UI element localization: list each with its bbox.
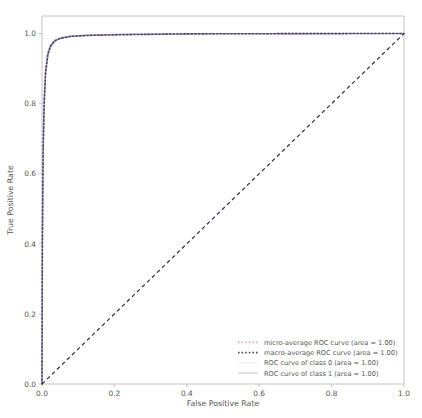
x-tick-label-0.8: 0.8	[326, 389, 338, 398]
y-tick-label-0.2: 0.2	[24, 310, 36, 319]
x-tick-label-0.6: 0.6	[253, 389, 265, 398]
x-tick-label-0.2: 0.2	[109, 389, 121, 398]
legend-label-3: ROC curve of class 1 (area = 1.00)	[264, 370, 379, 378]
legend-label-2: ROC curve of class 0 (area = 1.00)	[264, 359, 379, 367]
x-tick-label-1.0: 1.0	[398, 389, 410, 398]
y-axis-tick-labels: 0.00.20.40.60.81.0	[24, 29, 36, 388]
x-axis-tick-labels: 0.00.20.40.60.81.0	[36, 389, 410, 398]
y-tick-label-1.0: 1.0	[24, 29, 36, 38]
plot-area-background	[42, 16, 404, 384]
x-tick-label-0.0: 0.0	[36, 389, 48, 398]
y-tick-label-0.4: 0.4	[24, 240, 36, 249]
y-tick-label-0.8: 0.8	[24, 99, 36, 108]
x-tick-label-0.4: 0.4	[181, 389, 193, 398]
x-axis-label: False Positive Rate	[187, 399, 260, 408]
roc-chart-figure: 0.00.20.40.60.81.0 0.00.20.40.60.81.0 Fa…	[0, 0, 422, 418]
legend-label-1: macro-average ROC curve (area = 1.00)	[264, 349, 398, 357]
legend-label-0: micro-average ROC curve (area = 1.00)	[264, 339, 395, 347]
y-tick-label-0.6: 0.6	[24, 169, 36, 178]
y-tick-label-0.0: 0.0	[24, 380, 36, 389]
roc-plot-canvas: 0.00.20.40.60.81.0 0.00.20.40.60.81.0 Fa…	[0, 0, 422, 418]
y-axis-label: True Positive Rate	[6, 165, 15, 236]
